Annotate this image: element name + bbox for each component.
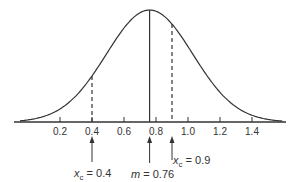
marker-lines: [92, 10, 172, 122]
annotation-text: = 0.76: [140, 168, 174, 180]
annotation-arrows: [90, 136, 175, 163]
bell-curve: [20, 10, 282, 121]
annotation-xc-low: xc = 0.4: [74, 167, 111, 182]
x-tick-label: 0.2: [53, 126, 67, 137]
annotation-xc-high: xc = 0.9: [173, 154, 210, 169]
x-tick-label: 1.0: [181, 126, 195, 137]
x-tick-label: 0.4: [85, 126, 99, 137]
arrow-up-icon: [90, 136, 95, 143]
x-tick-label: 0.6: [117, 126, 131, 137]
x-tick-label: 1.2: [213, 126, 227, 137]
annotation-text: = 0.9: [183, 154, 211, 166]
arrow-up-icon: [170, 136, 175, 143]
x-tick-label: 1.4: [245, 126, 259, 137]
x-tick-label: 0.8: [149, 126, 163, 137]
annotation-var: m: [131, 168, 140, 180]
arrow-up-icon: [147, 136, 152, 143]
normal-distribution-chart: [0, 0, 295, 182]
annotation-text: = 0.4: [84, 167, 112, 179]
annotation-mean: m = 0.76: [131, 168, 174, 180]
